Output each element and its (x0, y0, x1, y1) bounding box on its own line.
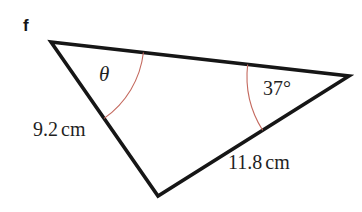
side-bottom-right-value: 11.8 (228, 151, 262, 173)
side-left-value: 9.2 (33, 118, 58, 140)
triangle-outline (51, 42, 349, 196)
side-bottom-right-unit: cm (265, 151, 289, 173)
triangle-diagram-svg (0, 0, 362, 212)
side-label-left: 9.2cm (33, 119, 85, 139)
angle-label-theta: θ (99, 64, 109, 85)
side-left-unit: cm (61, 118, 85, 140)
angle-label-37-degrees: 37° (263, 78, 291, 98)
part-label-f: f (23, 17, 29, 34)
side-label-bottom-right: 11.8cm (228, 152, 290, 172)
triangle-figure: f θ 37° 9.2cm 11.8cm (0, 0, 362, 212)
